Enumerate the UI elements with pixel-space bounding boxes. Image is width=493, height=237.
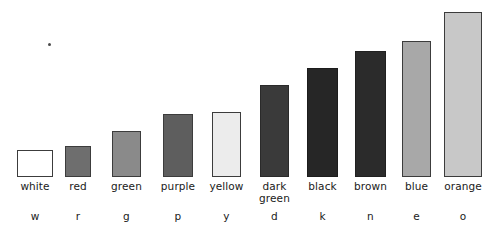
category-code-labels-row: wrgpydkneo (0, 211, 493, 237)
bar-y[interactable] (212, 112, 241, 177)
bar-e[interactable] (402, 41, 431, 177)
scan-speck (48, 43, 51, 46)
category-code-o: o (418, 211, 493, 223)
category-label-o: orange (418, 181, 493, 193)
bar-g[interactable] (112, 131, 141, 177)
category-labels-row: whiteredgreenpurpleyellowdarkgreenblackb… (0, 181, 493, 211)
bar-chart: whiteredgreenpurpleyellowdarkgreenblackb… (0, 0, 493, 237)
bar-o[interactable] (444, 12, 482, 177)
bar-d[interactable] (260, 85, 289, 177)
category-label-line: green (230, 193, 320, 205)
bar-k[interactable] (307, 68, 338, 177)
plot-area (0, 0, 493, 180)
bar-p[interactable] (163, 114, 193, 177)
bar-r[interactable] (65, 146, 91, 177)
category-label-line: orange (418, 181, 493, 193)
bar-n[interactable] (355, 51, 386, 177)
bar-w[interactable] (17, 150, 53, 177)
